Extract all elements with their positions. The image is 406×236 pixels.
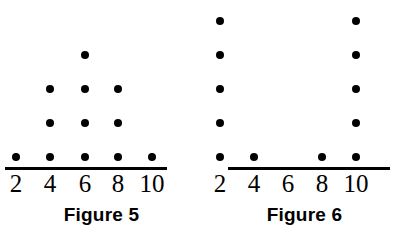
data-dot (12, 153, 20, 161)
data-dot (352, 153, 360, 161)
data-dot (81, 119, 89, 127)
axis-tick-label: 2 (214, 171, 227, 197)
data-dot (216, 153, 224, 161)
data-dot (114, 85, 122, 93)
data-dot (216, 85, 224, 93)
data-dot (216, 17, 224, 25)
axis-tick-label: 10 (140, 171, 165, 197)
data-dot (148, 153, 156, 161)
data-dot (352, 17, 360, 25)
dot-plot-area (203, 0, 406, 168)
data-dot (318, 153, 326, 161)
figure-panel: 246810Figure 5 (0, 0, 203, 236)
data-dot (216, 119, 224, 127)
axis-tick-label: 6 (79, 171, 92, 197)
data-dot (250, 153, 258, 161)
data-dot (81, 51, 89, 59)
figure-caption: Figure 6 (203, 203, 406, 227)
axis-tick-label: 4 (248, 171, 261, 197)
dot-plot-area (0, 0, 203, 168)
data-dot (352, 85, 360, 93)
axis-tick-label: 8 (316, 171, 329, 197)
dot-plot-figure-pair: 246810Figure 5246810Figure 6 (0, 0, 406, 236)
axis-tick-label: 2 (10, 171, 23, 197)
axis-tick-label: 4 (44, 171, 57, 197)
data-dot (352, 119, 360, 127)
data-dot (46, 85, 54, 93)
data-dot (81, 153, 89, 161)
data-dot (216, 51, 224, 59)
data-dot (114, 119, 122, 127)
data-dot (46, 153, 54, 161)
axis-tick-label: 6 (282, 171, 295, 197)
figure-caption: Figure 5 (0, 203, 203, 227)
data-dot (46, 119, 54, 127)
data-dot (114, 153, 122, 161)
figure-panel: 246810Figure 6 (203, 0, 406, 236)
data-dot (81, 85, 89, 93)
axis-tick-label: 10 (344, 171, 369, 197)
data-dot (352, 51, 360, 59)
axis-tick-label: 8 (112, 171, 125, 197)
